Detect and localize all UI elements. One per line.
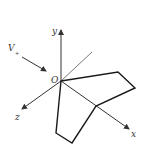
y-axis-label: y	[51, 26, 58, 36]
x-axis-label: x	[131, 129, 136, 139]
velocity-subscript: +	[15, 50, 19, 56]
x-axis	[61, 81, 129, 129]
velocity-arrow	[22, 57, 46, 71]
z-axis	[22, 81, 61, 109]
folded-plane-shape	[56, 72, 135, 143]
z-axis-label: z	[14, 112, 20, 122]
coordinate-diagram: y O z x V +	[0, 0, 142, 151]
origin-label: O	[51, 75, 59, 85]
